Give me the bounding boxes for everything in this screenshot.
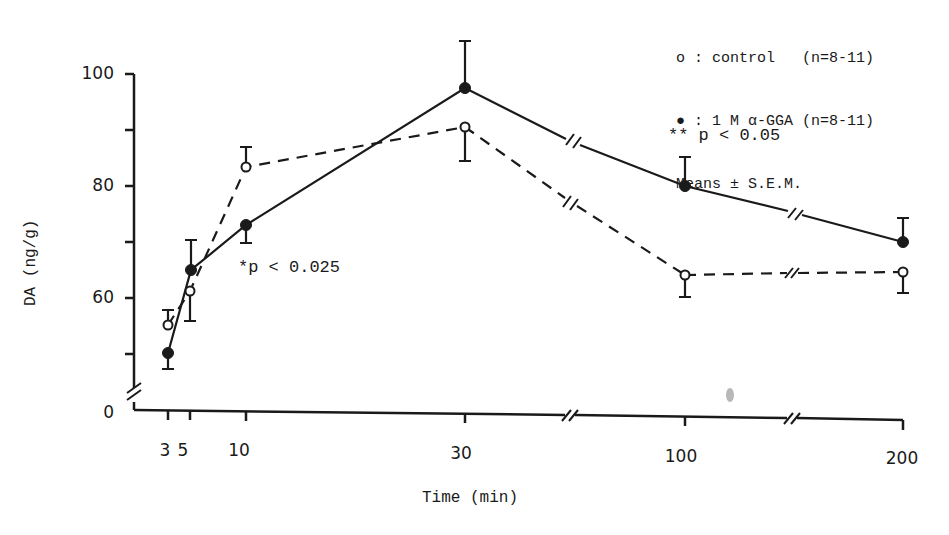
chart-legend: o : control (n=8-11) ● : 1 M α-GGA (n=8-… (676, 6, 874, 216)
filled-circle-icon (460, 83, 471, 94)
open-circle-icon (899, 268, 908, 277)
smudge-mark (726, 388, 734, 402)
legend-note: Means ± S.E.M. (676, 174, 874, 195)
y-tick-80: 80 (64, 175, 114, 195)
significance-annotation-2: ** p < 0.05 (668, 126, 780, 145)
x-axis-label: Time (min) (422, 489, 518, 507)
y-ticks (125, 74, 134, 354)
open-circle-icon (681, 271, 690, 280)
open-circle-legend-icon: o (676, 50, 685, 67)
x-tick-100: 100 (656, 446, 706, 466)
y-tick-0: 0 (64, 402, 114, 422)
x-tick-30: 30 (436, 443, 486, 463)
legend-control: o : control (n=8-11) (676, 48, 874, 69)
open-circle-icon (186, 287, 195, 296)
open-circle-icon (461, 123, 470, 132)
x-tick-200: 200 (877, 448, 927, 468)
y-tick-60: 60 (64, 287, 114, 307)
y-axis-label: DA (ng/g) (22, 220, 40, 306)
filled-circle-icon (898, 237, 909, 248)
filled-circle-icon (163, 348, 174, 359)
filled-circle-icon (241, 220, 252, 231)
y-tick-100: 100 (64, 63, 114, 83)
filled-circle-icon (186, 265, 197, 276)
x-tick-5: 5 (158, 440, 208, 460)
open-circle-icon (242, 163, 251, 172)
x-tick-10: 10 (214, 440, 264, 460)
significance-annotation-1: *p < 0.025 (238, 258, 340, 277)
open-circle-icon (164, 321, 173, 330)
